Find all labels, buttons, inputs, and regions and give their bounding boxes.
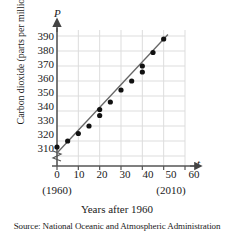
x-tick-label: 40 [137,169,159,180]
data-point [140,63,145,68]
data-point [54,144,59,149]
source-note: Source: National Oceanic and Atmospheric… [0,221,234,231]
x-tick-label: 50 [160,169,182,180]
data-point [118,87,123,92]
x-tick-label: 20 [91,169,113,180]
x-tick-label: 10 [68,169,90,180]
data-point [76,131,81,136]
x-tick-label: 30 [114,169,136,180]
x-axis-caption: Years after 1960 [0,203,234,215]
data-point [108,99,113,104]
data-point [140,69,145,74]
data-point [161,36,166,41]
data-point [97,113,102,118]
x-annotation-1960: (1960) [37,185,77,196]
data-point [150,50,155,55]
data-point [97,107,102,112]
data-point [86,123,91,128]
gridlines [57,30,185,166]
x-annotation-2010: (2010) [151,185,191,196]
data-point [65,138,70,143]
co2-scatter-chart: Carbon dioxide (parts per million) 390 3… [0,0,234,238]
x-tick-label: 0 [46,169,68,180]
x-tick-label: 60 [183,169,205,180]
data-point [129,78,134,83]
